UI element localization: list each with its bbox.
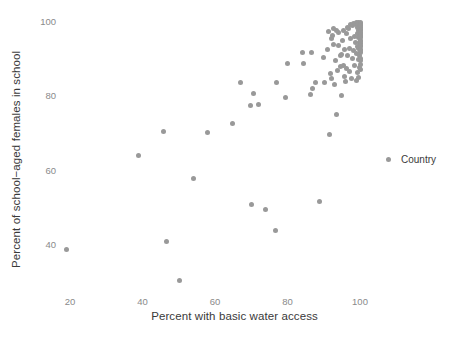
data-point — [354, 51, 359, 56]
data-point — [328, 71, 333, 76]
data-point — [329, 36, 334, 41]
data-point — [177, 278, 182, 283]
data-point — [358, 50, 363, 55]
data-point — [332, 82, 337, 87]
data-point — [355, 25, 360, 30]
data-point — [338, 64, 343, 69]
data-point — [313, 80, 318, 85]
data-point — [341, 28, 346, 33]
data-point — [358, 23, 363, 28]
data-point — [358, 35, 363, 40]
data-point — [348, 22, 353, 27]
data-point — [283, 95, 288, 100]
data-point — [325, 47, 330, 52]
data-point — [336, 43, 341, 48]
data-point — [349, 76, 354, 81]
data-point — [358, 62, 363, 67]
data-point — [350, 23, 355, 28]
data-point — [351, 48, 356, 53]
data-point — [274, 80, 279, 85]
data-point — [356, 28, 361, 33]
data-point — [341, 63, 346, 68]
data-point — [334, 112, 339, 117]
data-point — [330, 33, 335, 38]
data-point — [164, 239, 169, 244]
y-tick-100: 100 — [28, 16, 56, 27]
data-point — [251, 91, 256, 96]
data-point — [345, 25, 350, 30]
data-point — [308, 92, 313, 97]
data-point — [331, 26, 336, 31]
data-point — [358, 21, 363, 26]
data-point — [205, 130, 210, 135]
data-point — [340, 38, 345, 43]
data-point — [329, 76, 334, 81]
data-point — [351, 21, 356, 26]
data-point — [355, 70, 360, 75]
data-point — [333, 58, 338, 63]
data-point — [356, 20, 361, 25]
x-tick-100: 100 — [340, 296, 380, 307]
data-point — [331, 42, 336, 47]
data-point — [358, 31, 363, 36]
data-point — [358, 24, 363, 29]
data-point — [358, 34, 363, 39]
data-point — [356, 46, 361, 51]
data-point — [273, 228, 278, 233]
data-point — [334, 28, 339, 33]
data-point — [355, 31, 360, 36]
data-point — [355, 44, 360, 49]
data-point — [249, 202, 254, 207]
x-tick-80: 80 — [268, 296, 308, 307]
data-point — [343, 79, 348, 84]
data-point — [327, 132, 332, 137]
data-point — [317, 199, 322, 204]
data-point — [358, 22, 363, 27]
y-axis-title: Percent of school−aged females in school — [10, 51, 22, 268]
legend-key-country-icon — [386, 157, 391, 162]
data-point — [339, 93, 344, 98]
data-point — [136, 153, 141, 158]
data-point — [357, 65, 362, 70]
data-point — [358, 47, 363, 52]
data-point — [358, 20, 363, 25]
data-point — [285, 61, 290, 66]
data-point — [357, 53, 362, 58]
data-point — [230, 121, 235, 126]
data-point — [358, 30, 363, 35]
data-point — [326, 29, 331, 34]
x-tick-60: 60 — [195, 296, 235, 307]
data-point — [64, 247, 69, 252]
data-point — [263, 207, 268, 212]
data-point — [335, 68, 340, 73]
data-point — [358, 41, 363, 46]
data-point — [347, 69, 352, 74]
data-point — [358, 43, 363, 48]
data-point — [358, 44, 363, 49]
data-point — [356, 35, 361, 40]
data-point — [358, 27, 363, 32]
data-point — [348, 36, 353, 41]
plot-panel — [0, 0, 461, 344]
data-point — [357, 24, 362, 29]
legend-label-country: Country — [401, 154, 436, 165]
y-tick-60: 60 — [28, 165, 56, 176]
data-point — [353, 40, 358, 45]
data-point — [358, 56, 363, 61]
y-tick-80: 80 — [28, 90, 56, 101]
data-point — [358, 25, 363, 30]
data-point — [345, 53, 350, 58]
data-point — [309, 50, 314, 55]
data-point — [191, 176, 196, 181]
x-tick-20: 20 — [50, 296, 90, 307]
data-point — [256, 102, 261, 107]
data-point — [357, 33, 362, 38]
data-point — [354, 78, 359, 83]
legend: Country — [386, 154, 436, 165]
data-point — [354, 20, 359, 25]
data-point — [356, 57, 361, 62]
data-point — [352, 34, 357, 39]
data-point — [347, 46, 352, 51]
data-point — [321, 55, 326, 60]
data-point — [342, 47, 347, 52]
